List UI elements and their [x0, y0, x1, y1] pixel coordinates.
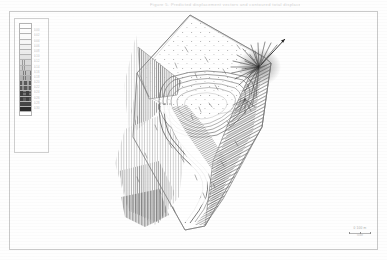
legend-label [34, 111, 48, 116]
map-svg [9, 11, 378, 250]
scale-bar-graphic [349, 232, 371, 234]
scale-bar-caption: scale [345, 234, 375, 238]
legend-swatch-column [19, 23, 32, 116]
scanned-page: Figure 5. Predicted displacement vectors… [0, 0, 387, 260]
legend-box: 0.000.020.040.060.080.100.120.140.160.18… [14, 18, 49, 153]
map-drawing [9, 11, 378, 250]
scale-bar: 0 100 m scale [345, 226, 375, 242]
scale-bar-value: 0 100 m [345, 226, 375, 231]
legend-label-column: 0.000.020.040.060.080.100.120.140.160.18… [34, 23, 48, 116]
figure-caption: Figure 5. Predicted displacement vectors… [150, 0, 300, 10]
legend-swatch [19, 111, 32, 116]
